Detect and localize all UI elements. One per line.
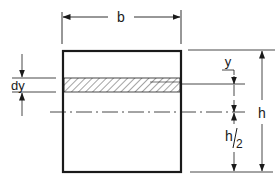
y-dimension: y — [222, 54, 234, 112]
cross-section-diagram: b dy y h — [0, 0, 275, 182]
height-label: h — [258, 105, 266, 121]
y-label: y — [225, 54, 232, 69]
height-dimension: h — [188, 50, 275, 172]
half-height-dimension: h 2 — [225, 113, 243, 171]
width-dimension: b — [62, 9, 181, 44]
dy-label: dy — [11, 78, 25, 93]
width-label: b — [117, 9, 125, 25]
differential-strip — [64, 78, 180, 92]
y-leader — [222, 70, 234, 75]
strip-thickness-dimension: dy — [11, 54, 56, 116]
half-height-numerator: h — [225, 128, 233, 144]
cross-section-rectangle — [63, 51, 181, 172]
diagram-canvas: b dy y h — [0, 0, 275, 182]
half-height-denominator: 2 — [236, 137, 243, 151]
